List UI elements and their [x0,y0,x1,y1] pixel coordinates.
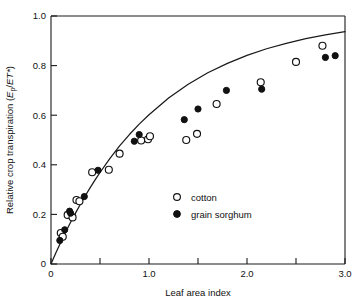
data-point-grain-sorghum-12 [322,54,328,60]
y-axis-tick-labels: 0 0.2 0.4 0.6 0.8 1.0 [33,10,46,269]
legend-label-grain-sorghum: grain sorghum [191,209,252,220]
y-tick-label-0: 0 [41,258,46,269]
fit-curve [51,32,345,264]
x-tick-label-0: 0 [48,268,53,279]
y-axis-title-prefix: Relative crop transpiration ( [4,97,15,214]
data-point-grain-sorghum-6 [131,138,137,144]
legend: cotton grain sorghum [174,192,252,220]
data-point-grain-sorghum-3 [68,210,74,216]
data-point-grain-sorghum-8 [181,117,187,123]
data-point-grain-sorghum-11 [259,86,265,92]
chart-svg: 0 0.2 0.4 0.6 0.8 1.0 0 1.0 2.0 3.0 Leaf… [0,0,357,304]
y-tick-label-0-8: 0.8 [33,60,46,71]
data-point-cotton-11 [146,133,153,140]
legend-label-cotton: cotton [191,192,217,203]
data-point-cotton-12 [183,137,190,144]
y-axis-title: Relative crop transpiration (Ep/ET*) [4,66,17,214]
data-point-cotton-17 [319,42,326,49]
data-point-grain-sorghum-0 [57,237,63,243]
data-point-cotton-13 [194,130,201,137]
data-point-cotton-14 [213,101,220,108]
y-axis-title-suffix: ) [4,66,15,69]
data-point-cotton-7 [105,166,112,173]
chart-figure: 0 0.2 0.4 0.6 0.8 1.0 0 1.0 2.0 3.0 Leaf… [0,0,357,304]
x-axis-tick-labels: 0 1.0 2.0 3.0 [48,268,351,279]
data-point-grain-sorghum-13 [332,53,338,59]
data-point-cotton-15 [257,79,264,86]
plot-frame [51,16,345,264]
svg-text:Relative crop transpiration (E: Relative crop transpiration (Ep/ET*) [4,66,17,214]
data-point-grain-sorghum-9 [195,106,201,112]
y-tick-label-0-4: 0.4 [33,159,46,170]
x-axis-title: Leaf area index [165,287,231,298]
y-tick-label-0-6: 0.6 [33,110,46,121]
x-tick-label-1-0: 1.0 [142,268,155,279]
data-point-grain-sorghum-7 [136,131,142,137]
data-point-grain-sorghum-1 [62,227,68,233]
data-point-cotton-16 [293,58,300,65]
x-tick-label-3-0: 3.0 [338,268,351,279]
data-point-grain-sorghum-5 [95,167,101,173]
y-tick-label-0-2: 0.2 [33,209,46,220]
x-tick-label-2-0: 2.0 [240,268,253,279]
y-axis-ticks [51,16,57,264]
x-axis-ticks [51,258,345,264]
data-point-grain-sorghum-10 [223,87,229,93]
data-point-grain-sorghum-4 [81,193,87,199]
y-tick-label-1-0: 1.0 [33,10,46,21]
data-point-cotton-8 [116,150,123,157]
legend-marker-grain-sorghum-icon [174,211,181,218]
legend-marker-cotton-icon [174,194,181,201]
y-axis-title-et: ET* [4,69,15,85]
